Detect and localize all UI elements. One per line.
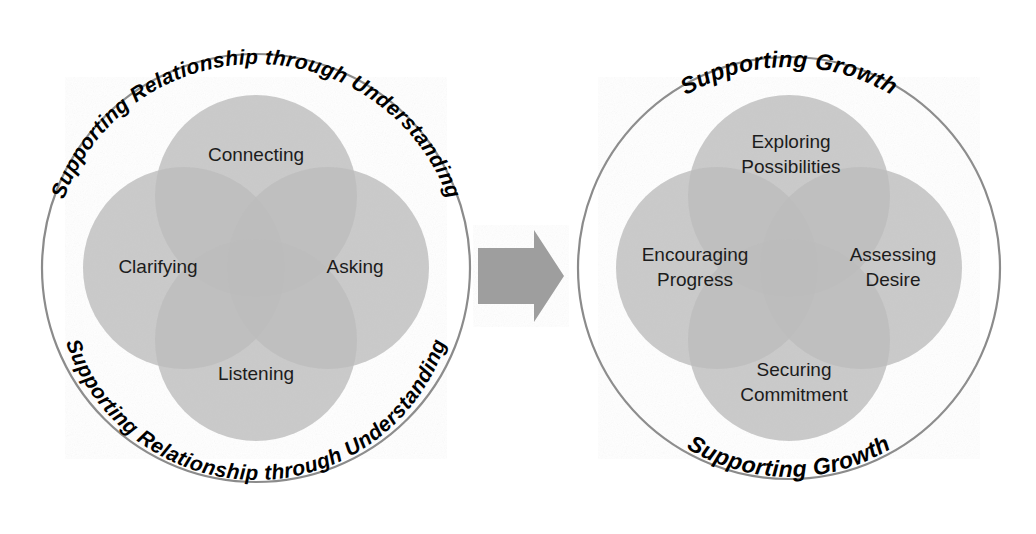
petal-label-line: Securing: [757, 359, 832, 380]
left-circle-group: Connecting Clarifying Asking Listening S…: [42, 45, 470, 484]
petal-label-line: Exploring: [751, 131, 830, 152]
transition-arrow[interactable]: [478, 230, 564, 322]
petal-label-asking: Asking: [326, 256, 383, 277]
diagram-root: Connecting Clarifying Asking Listening S…: [0, 0, 1036, 534]
petal-label-connecting: Connecting: [208, 144, 304, 165]
petal-label-line: Progress: [657, 269, 733, 290]
petal-label-line: Commitment: [740, 384, 848, 405]
petal-label-line: Desire: [866, 269, 921, 290]
petal-label-line: Assessing: [850, 244, 937, 265]
petal-label-line: Encouraging: [642, 244, 749, 265]
petal-label-line: Possibilities: [741, 156, 840, 177]
arrow-shape[interactable]: [478, 230, 564, 322]
petal-label-listening: Listening: [218, 363, 294, 384]
diagram-canvas: Connecting Clarifying Asking Listening S…: [0, 0, 1036, 534]
right-circle-group: Exploring Possibilities Encouraging Prog…: [578, 46, 1000, 482]
petal-label-clarifying: Clarifying: [118, 256, 197, 277]
